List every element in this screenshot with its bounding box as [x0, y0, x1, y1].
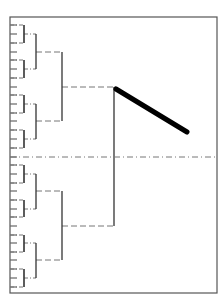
leaf-ticks	[10, 25, 17, 287]
bracket-tree-diagram	[0, 0, 221, 302]
thick-diagonal-stroke	[116, 89, 187, 132]
brackets	[24, 25, 114, 287]
